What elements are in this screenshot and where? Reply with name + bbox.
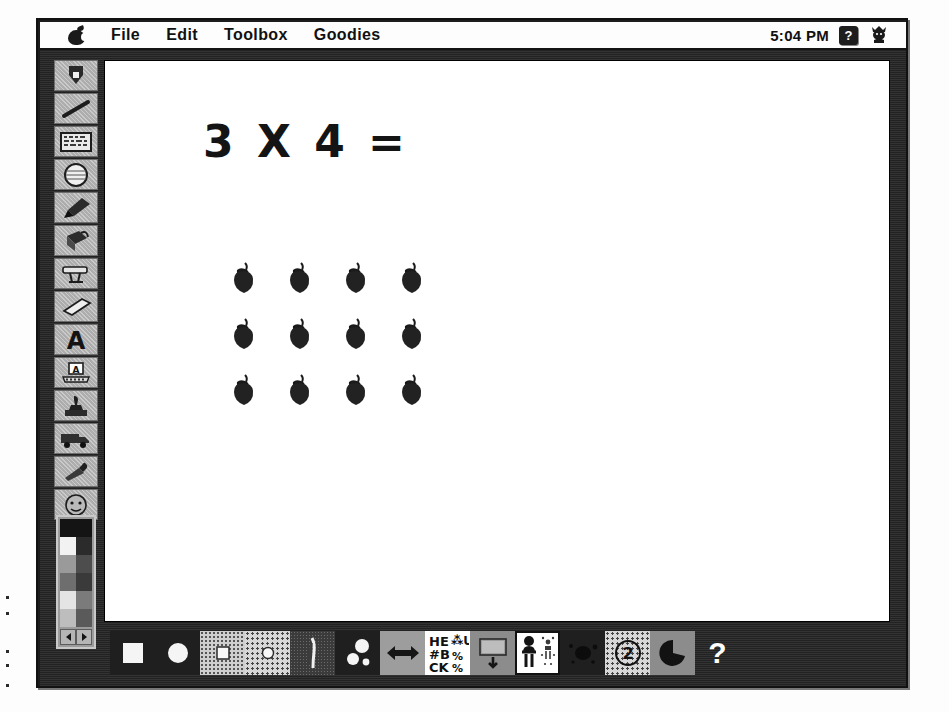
scan-artifact — [6, 612, 9, 615]
svg-text:A: A — [73, 364, 80, 374]
svg-text:CK: CK — [429, 660, 450, 674]
menu-goodies[interactable]: Goodies — [314, 26, 381, 44]
rectangle-tool[interactable] — [54, 126, 98, 157]
stamp-grid — [215, 251, 439, 419]
pencil-tool[interactable] — [54, 60, 98, 91]
page-background: File Edit Toolbox Goodies 5:04 PM ? — [0, 0, 949, 712]
option-resize-arrows[interactable] — [380, 631, 425, 675]
option-spray-brush[interactable] — [290, 631, 335, 675]
menu-bar: File Edit Toolbox Goodies 5:04 PM ? — [40, 22, 906, 50]
swatch-grid — [60, 519, 92, 627]
help-icon[interactable]: ? — [839, 26, 858, 45]
option-bar: HE ⁂U #B % CK % — [104, 630, 890, 676]
menu-edit[interactable]: Edit — [166, 26, 198, 44]
swatch[interactable] — [60, 609, 76, 627]
swatch[interactable] — [60, 555, 76, 573]
equation-text: 3 X 4 = — [203, 116, 409, 167]
swatch-prev-button[interactable] — [60, 629, 76, 645]
eraser-block-tool[interactable] — [54, 258, 98, 289]
color-pattern-palette — [56, 515, 96, 649]
option-splat[interactable] — [560, 631, 605, 675]
swatch[interactable] — [76, 573, 92, 591]
svg-text:2: 2 — [622, 644, 633, 663]
paint-can-tool[interactable] — [54, 225, 98, 256]
scan-artifact — [6, 650, 9, 653]
option-large-square[interactable] — [110, 631, 155, 675]
strawberry-icon — [215, 307, 271, 363]
option-people-stamps[interactable] — [515, 631, 560, 675]
stamp-tool[interactable] — [54, 390, 98, 421]
eyedropper-tool[interactable] — [54, 456, 98, 487]
svg-text:A: A — [67, 328, 86, 352]
menu-bar-right: 5:04 PM ? — [770, 24, 906, 46]
option-small-square[interactable] — [200, 631, 245, 675]
option-page-two[interactable]: 2 — [605, 631, 650, 675]
scan-artifact — [6, 684, 9, 687]
swatch[interactable] — [60, 591, 76, 609]
strawberry-icon — [215, 251, 271, 307]
strawberry-icon — [383, 363, 439, 419]
swatch[interactable] — [60, 519, 76, 537]
swatch-next-button[interactable] — [76, 629, 92, 645]
strawberry-icon — [271, 363, 327, 419]
help-button[interactable]: ? — [695, 631, 740, 675]
strawberry-icon — [327, 251, 383, 307]
swatch[interactable] — [76, 609, 92, 627]
swatch[interactable] — [76, 555, 92, 573]
text-tool[interactable]: A — [54, 324, 98, 355]
kid-face-icon[interactable] — [868, 24, 890, 46]
drawing-canvas[interactable]: 3 X 4 = — [104, 60, 890, 622]
option-pie[interactable] — [650, 631, 695, 675]
scan-artifact — [6, 596, 9, 599]
swatch[interactable] — [76, 591, 92, 609]
strawberry-icon — [215, 363, 271, 419]
strawberry-icon — [271, 251, 327, 307]
option-letters[interactable]: HE ⁂U #B % CK % — [425, 631, 470, 675]
strawberry-icon — [383, 251, 439, 307]
typewriter-tool[interactable]: A — [54, 357, 98, 388]
tool-palette: A A — [54, 60, 98, 522]
option-large-circle[interactable] — [155, 631, 200, 675]
help-question-mark: ? — [708, 638, 726, 668]
brush-tool[interactable] — [54, 192, 98, 223]
apple-logo-icon[interactable] — [68, 26, 85, 45]
strawberry-icon — [327, 307, 383, 363]
swatch-pager — [60, 629, 92, 645]
swatch[interactable] — [60, 573, 76, 591]
option-small-circle[interactable] — [245, 631, 290, 675]
oval-tool[interactable] — [54, 159, 98, 190]
option-stamp-pad[interactable] — [470, 631, 515, 675]
strawberry-icon — [271, 307, 327, 363]
option-bubbles[interactable] — [335, 631, 380, 675]
application-window: File Edit Toolbox Goodies 5:04 PM ? — [36, 18, 908, 688]
clock[interactable]: 5:04 PM — [770, 27, 829, 44]
swatch[interactable] — [76, 537, 92, 555]
strawberry-icon — [327, 363, 383, 419]
menu-toolbox[interactable]: Toolbox — [224, 26, 288, 44]
strawberry-icon — [383, 307, 439, 363]
eraser-tool[interactable] — [54, 291, 98, 322]
swatch[interactable] — [60, 537, 76, 555]
truck-tool[interactable] — [54, 423, 98, 454]
line-tool[interactable] — [54, 93, 98, 124]
scan-artifact — [6, 664, 9, 667]
menu-file[interactable]: File — [111, 26, 140, 44]
svg-text:⁂U: ⁂U — [451, 634, 469, 648]
swatch[interactable] — [76, 519, 92, 537]
svg-text:%: % — [452, 662, 463, 674]
window-interior: A A — [40, 50, 906, 686]
